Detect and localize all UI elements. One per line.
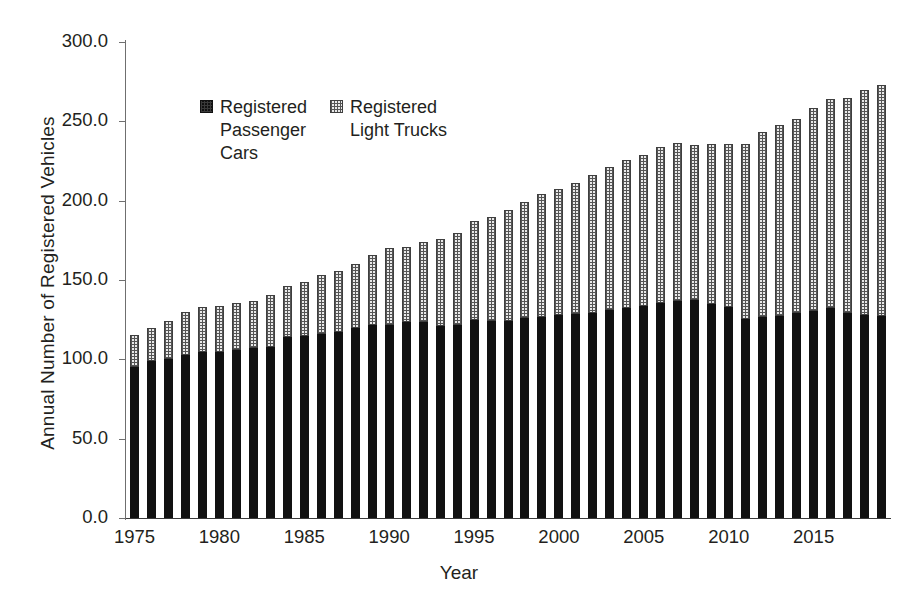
bar-stack: [826, 99, 835, 518]
bar-stack: [843, 98, 852, 518]
bar-segment-passenger-cars: [622, 308, 631, 518]
bar-segment-light-trucks: [504, 210, 513, 321]
bar-segment-light-trucks: [605, 167, 614, 311]
bar-segment-passenger-cars: [130, 367, 139, 518]
bar-stack: [877, 85, 886, 518]
bar-segment-passenger-cars: [724, 307, 733, 518]
bar-segment-light-trucks: [860, 90, 869, 315]
bar-stack: [249, 301, 258, 518]
y-tick-mark: [119, 280, 126, 281]
chart-figure: Annual Number of Registered Vehicles 300…: [0, 0, 918, 606]
bar-stack: [130, 335, 139, 518]
y-tick-mark: [119, 439, 126, 440]
bar-segment-light-trucks: [724, 144, 733, 307]
bar-segment-passenger-cars: [826, 308, 835, 518]
y-tick-mark: [119, 201, 126, 202]
bar-segment-passenger-cars: [554, 315, 563, 518]
bar-segment-passenger-cars: [470, 320, 479, 518]
y-tick-label: 200.0: [22, 191, 108, 210]
bar-stack: [317, 275, 326, 518]
bar-stack: [402, 247, 411, 518]
legend-item-passenger-cars: Registered Passenger Cars: [200, 96, 307, 165]
bar-segment-light-trucks: [707, 144, 716, 304]
bar-stack: [453, 233, 462, 518]
bar-segment-passenger-cars: [673, 301, 682, 518]
dotted-square-icon: [330, 100, 343, 113]
bar-segment-light-trucks: [249, 301, 258, 349]
x-tick-label: 1985: [269, 526, 339, 548]
bar-stack: [385, 248, 394, 518]
y-tick-mark: [119, 121, 126, 122]
bar-stack: [520, 202, 529, 518]
bar-segment-light-trucks: [147, 328, 156, 361]
x-tick-label: 1995: [439, 526, 509, 548]
x-tick-label: 1990: [354, 526, 424, 548]
bar-segment-passenger-cars: [792, 313, 801, 518]
chart-legend: Registered Passenger Cars Registered Lig…: [200, 96, 530, 176]
bar-stack: [436, 239, 445, 518]
y-tick-label: 150.0: [22, 270, 108, 289]
legend-label-passenger-cars: Registered Passenger Cars: [220, 96, 307, 165]
bar-stack: [860, 90, 869, 518]
bar-stack: [300, 282, 309, 518]
bar-segment-light-trucks: [470, 221, 479, 320]
bar-segment-light-trucks: [198, 307, 207, 352]
bar-segment-passenger-cars: [843, 313, 852, 518]
bar-segment-light-trucks: [283, 286, 292, 337]
bar-stack: [554, 189, 563, 518]
bar-segment-passenger-cars: [300, 336, 309, 518]
bar-stack: [724, 144, 733, 518]
bar-segment-passenger-cars: [639, 306, 648, 518]
x-tick-label: 2015: [779, 526, 849, 548]
bar-segment-passenger-cars: [453, 325, 462, 518]
bar-stack: [588, 175, 597, 518]
bar-segment-light-trucks: [181, 312, 190, 354]
bar-stack: [775, 125, 784, 518]
y-tick-mark: [119, 42, 126, 43]
bar-segment-light-trucks: [402, 247, 411, 323]
bar-segment-passenger-cars: [520, 318, 529, 518]
bar-stack: [198, 307, 207, 518]
bar-segment-passenger-cars: [249, 348, 258, 518]
bar-segment-passenger-cars: [690, 300, 699, 518]
bar-stack: [368, 255, 377, 518]
bar-stack: [504, 210, 513, 518]
bar-stack: [707, 144, 716, 518]
bar-segment-passenger-cars: [707, 304, 716, 518]
bar-stack: [215, 306, 224, 518]
bar-stack: [164, 321, 173, 518]
bar-stack: [656, 147, 665, 518]
bar-segment-light-trucks: [130, 335, 139, 367]
bar-segment-light-trucks: [266, 295, 275, 347]
bar-segment-light-trucks: [419, 242, 428, 322]
bar-segment-light-trucks: [215, 306, 224, 352]
bar-segment-light-trucks: [877, 85, 886, 316]
bar-segment-light-trucks: [554, 189, 563, 315]
bar-segment-passenger-cars: [147, 361, 156, 518]
bar-segment-passenger-cars: [605, 310, 614, 518]
bar-segment-light-trucks: [571, 183, 580, 314]
bar-stack: [758, 132, 767, 519]
bar-segment-passenger-cars: [351, 328, 360, 518]
bar-segment-light-trucks: [690, 145, 699, 300]
bar-stack: [181, 312, 190, 518]
bar-segment-passenger-cars: [860, 315, 869, 518]
bar-stack: [571, 183, 580, 518]
bar-segment-light-trucks: [520, 202, 529, 318]
bar-segment-passenger-cars: [181, 355, 190, 518]
bar-segment-light-trucks: [351, 264, 360, 329]
bar-segment-light-trucks: [673, 143, 682, 302]
x-axis-title: Year: [0, 562, 918, 584]
x-tick-label: 2005: [609, 526, 679, 548]
bar-segment-passenger-cars: [266, 347, 275, 518]
y-tick-label: 300.0: [22, 32, 108, 51]
bar-segment-light-trucks: [453, 233, 462, 325]
x-tick-label: 2000: [524, 526, 594, 548]
bar-stack: [622, 160, 631, 518]
bar-segment-passenger-cars: [741, 319, 750, 518]
legend-label-light-trucks: Registered Light Trucks: [350, 96, 447, 142]
y-tick-mark: [119, 518, 126, 519]
bar-stack: [147, 328, 156, 518]
bar-segment-passenger-cars: [487, 321, 496, 518]
bar-stack: [419, 242, 428, 518]
